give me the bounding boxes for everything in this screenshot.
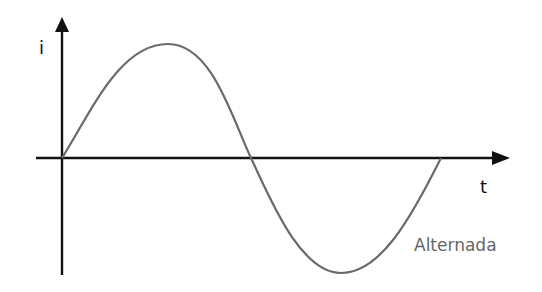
y-axis-label: i xyxy=(39,39,44,57)
y-axis xyxy=(55,17,69,275)
y-axis-arrow-icon xyxy=(55,17,69,32)
x-axis-arrow-icon xyxy=(492,151,510,165)
waveform-caption: Alternada xyxy=(414,237,497,254)
x-axis-label: t xyxy=(480,178,487,196)
